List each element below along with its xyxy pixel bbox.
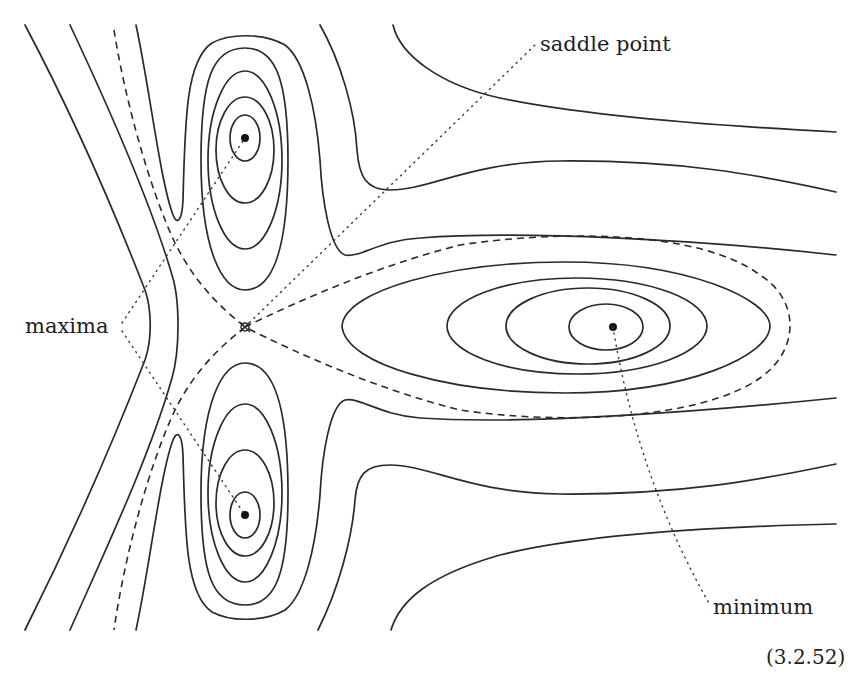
upper-lobe-contour bbox=[136, 25, 836, 255]
maximum-lower-marker bbox=[241, 511, 249, 519]
separatrix-lower-left bbox=[114, 327, 245, 630]
separatrix-upper-left bbox=[114, 30, 245, 327]
saddle-point-label: saddle point bbox=[540, 34, 671, 55]
minimum-label: minimum bbox=[713, 597, 813, 618]
maxima-label: maxima bbox=[25, 316, 108, 337]
upper-maximum-contours bbox=[201, 48, 288, 290]
maximum-upper-marker bbox=[241, 134, 249, 142]
equation-number: (3.2.52) bbox=[766, 647, 845, 667]
contour-diagram bbox=[0, 0, 866, 685]
lower-maximum-contours bbox=[201, 363, 288, 605]
leader-saddle-point bbox=[245, 45, 535, 327]
leader-minimum bbox=[613, 327, 710, 605]
minimum-contours bbox=[342, 262, 770, 393]
